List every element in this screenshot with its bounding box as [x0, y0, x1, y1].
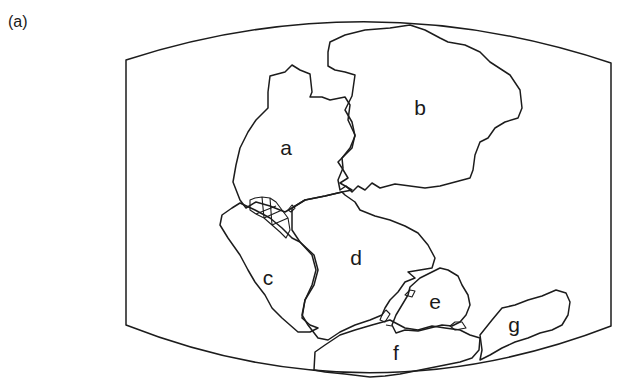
- label-a: a: [280, 136, 292, 159]
- continent-a: [233, 65, 355, 212]
- label-f: f: [393, 341, 399, 364]
- map-diagram: a b c d e f g: [0, 0, 617, 381]
- continent-g: [480, 290, 570, 360]
- microcontinent-network: [250, 197, 295, 238]
- continent-d: [292, 192, 435, 340]
- label-c: c: [263, 266, 274, 289]
- label-d: d: [350, 246, 362, 269]
- label-e: e: [429, 290, 441, 313]
- label-g: g: [508, 313, 520, 336]
- label-b: b: [414, 96, 426, 119]
